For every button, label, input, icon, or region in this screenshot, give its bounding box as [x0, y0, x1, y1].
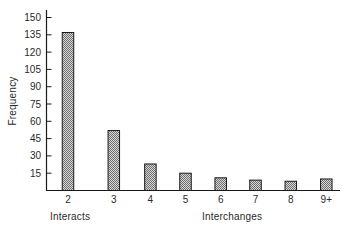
y-tick-label: 135 — [24, 29, 41, 40]
x-tick-label: 9+ — [321, 194, 333, 205]
bar-2 — [62, 32, 74, 190]
y-tick-label: 150 — [24, 12, 41, 23]
x-axis-tick-labels: 23456789+ — [65, 194, 332, 205]
y-tick-label: 45 — [30, 133, 42, 144]
x-tick-label: 7 — [253, 194, 259, 205]
x-tick-label: 2 — [65, 194, 71, 205]
x-axis-title: Interchanges — [202, 211, 262, 222]
y-axis-title: Frequency — [7, 76, 18, 125]
bar-6 — [215, 178, 227, 191]
x-tick-label: 5 — [183, 194, 189, 205]
bar-5 — [180, 173, 192, 190]
bar-4 — [145, 164, 157, 191]
y-tick-label: 60 — [30, 116, 42, 127]
y-tick-label: 75 — [30, 99, 42, 110]
y-tick-label: 105 — [24, 64, 41, 75]
bar-8 — [285, 181, 297, 190]
y-tick-label: 90 — [30, 81, 42, 92]
x-axis-title-left: Interacts — [50, 211, 90, 222]
bar-7 — [250, 180, 262, 190]
x-tick-label: 6 — [218, 194, 224, 205]
x-tick-label: 4 — [148, 194, 154, 205]
y-axis-ticks: 153045607590105120135150 — [24, 12, 51, 179]
bar-3 — [108, 131, 120, 191]
bar-9plus — [321, 179, 333, 191]
bars — [62, 32, 332, 190]
y-tick-label: 15 — [30, 168, 42, 179]
y-tick-label: 30 — [30, 150, 42, 161]
bar-chart: 153045607590105120135150 23456789+ Frequ… — [0, 0, 349, 232]
y-tick-label: 120 — [24, 47, 41, 58]
x-tick-label: 8 — [288, 194, 294, 205]
x-tick-label: 3 — [111, 194, 117, 205]
